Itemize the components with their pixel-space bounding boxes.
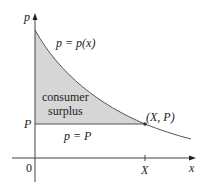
origin-label: 0 [26,161,32,175]
y-axis-label: p [23,10,30,24]
price-line-label: p = P [63,129,92,143]
region-label-line2: surplus [48,104,83,118]
point-label: (X, P) [146,110,175,124]
price-tick-label: P [23,117,32,131]
y-axis-arrow-icon [33,13,38,20]
x-axis-label: x [188,161,195,175]
region-label-line1: consumer [42,90,89,104]
demand-curve-label: p = p(x) [55,36,95,50]
consumer-surplus-diagram: p x 0 p = p(x) p = P consumer surplus (X… [0,0,205,191]
x-axis-arrow-icon [189,156,196,161]
quantity-tick-label: X [140,163,149,177]
